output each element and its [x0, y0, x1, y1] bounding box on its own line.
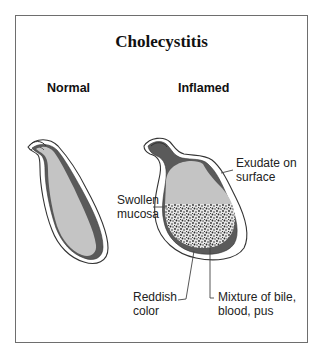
label-reddish-color: Reddish color — [133, 290, 177, 318]
label-swollen-mucosa: Swollen mucosa — [117, 193, 159, 221]
gallbladder-inflamed — [144, 138, 247, 260]
leader-reddish — [178, 251, 194, 300]
gallbladder-normal — [28, 140, 108, 264]
label-exudate: Exudate on surface — [236, 156, 297, 184]
leader-exudate — [221, 170, 233, 173]
label-mixture: Mixture of bile, blood, pus — [218, 290, 296, 318]
